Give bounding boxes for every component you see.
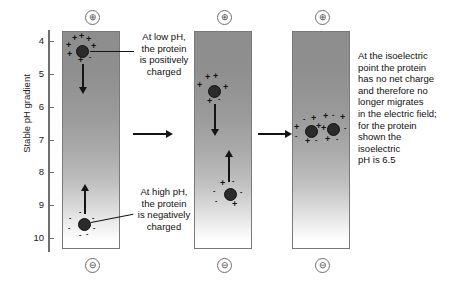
annotation-low-ph-line-4: charged bbox=[128, 66, 200, 78]
protein-column-3-right bbox=[327, 123, 340, 136]
protein-column-1-bottom bbox=[78, 218, 91, 231]
annotation-low-ph: At low pH, the protein is positively cha… bbox=[128, 31, 200, 77]
protein-column-2-top bbox=[208, 85, 221, 98]
axis-title: Stable pH gradient bbox=[21, 44, 32, 184]
axis-tick-9 bbox=[48, 205, 54, 206]
axis-tick-6 bbox=[48, 107, 54, 108]
migration-arrow-column-2-bottom bbox=[228, 156, 230, 182]
annotation-high-ph-line-3: is negatively bbox=[128, 209, 200, 221]
cathode-electrode-column-1: ⊖ bbox=[85, 258, 100, 273]
annotation-isoelectric-line-8: shown the bbox=[358, 131, 458, 143]
protein-column-2-bottom bbox=[224, 188, 237, 201]
cathode-electrode-column-2: ⊖ bbox=[217, 258, 232, 273]
isoelectric-focusing-diagram: 4 5 6 7 8 9 10 Stable pH gradient ⊕ ⊕ ⊕ … bbox=[0, 0, 460, 283]
migration-arrow-column-1-bottom bbox=[84, 190, 86, 214]
axis-tick-5 bbox=[48, 74, 54, 75]
annotation-isoelectric-line-1: At the isoelectric bbox=[358, 50, 458, 62]
annotation-high-ph-line-2: the protein bbox=[128, 198, 200, 210]
cathode-electrode-column-3: ⊖ bbox=[315, 258, 330, 273]
protein-column-1-top bbox=[76, 45, 89, 58]
ph-axis-line bbox=[48, 30, 50, 252]
annotation-low-ph-line-3: is positively bbox=[128, 54, 200, 66]
annotation-isoelectric-line-10: pH is 6.5 bbox=[358, 154, 458, 166]
migration-arrow-column-1-top bbox=[82, 64, 84, 88]
gel-column-2 bbox=[194, 31, 252, 249]
migration-arrow-column-2-top bbox=[214, 104, 216, 130]
annotation-isoelectric: At the isoelectric point the protein has… bbox=[358, 50, 458, 166]
annotation-high-ph: At high pH, the protein is negatively ch… bbox=[128, 186, 200, 232]
annotation-isoelectric-line-4: and therefore no bbox=[358, 85, 458, 97]
annotation-isoelectric-line-5: longer migrates bbox=[358, 96, 458, 108]
axis-tick-7 bbox=[48, 140, 54, 141]
annotation-isoelectric-line-9: isoelectric bbox=[358, 143, 458, 155]
annotation-low-ph-line-2: the protein bbox=[128, 43, 200, 55]
annotation-high-ph-line-4: charged bbox=[128, 221, 200, 233]
anode-electrode-column-1: ⊕ bbox=[85, 10, 100, 25]
gel-column-1 bbox=[62, 31, 120, 249]
annotation-isoelectric-line-6: in the electric field; bbox=[358, 108, 458, 120]
transition-arrow-2-to-3 bbox=[258, 133, 286, 135]
annotation-isoelectric-line-3: has no net charge bbox=[358, 73, 458, 85]
gel-column-3 bbox=[292, 31, 350, 249]
anode-electrode-column-3: ⊕ bbox=[315, 10, 330, 25]
axis-label-10: 10 bbox=[24, 233, 44, 242]
axis-tick-8 bbox=[48, 172, 54, 173]
axis-tick-10 bbox=[48, 238, 54, 239]
annotation-isoelectric-line-7: for the protein bbox=[358, 120, 458, 132]
anode-electrode-column-2: ⊕ bbox=[217, 10, 232, 25]
axis-tick-4 bbox=[48, 41, 54, 42]
transition-arrow-1-to-2 bbox=[133, 133, 167, 135]
protein-column-3-left bbox=[305, 125, 318, 138]
annotation-isoelectric-line-2: point the protein bbox=[358, 62, 458, 74]
annotation-low-ph-line-1: At low pH, bbox=[128, 31, 200, 43]
axis-label-9: 9 bbox=[24, 200, 44, 209]
annotation-high-ph-line-1: At high pH, bbox=[128, 186, 200, 198]
